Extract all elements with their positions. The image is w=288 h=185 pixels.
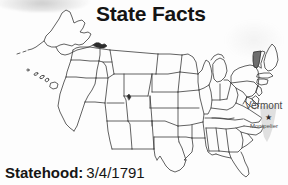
statehood-label: Statehood: [5, 164, 83, 181]
map-state-alaska [17, 10, 104, 55]
map-alaska-panhandle [93, 43, 107, 48]
map-region-west [58, 47, 114, 131]
us-map-svg [0, 0, 288, 185]
state-facts-card: State Facts Vermont ★ Montpelier Stateho… [0, 0, 288, 185]
statehood-value: 3/4/1791 [86, 164, 144, 181]
callout-capital-name: Montpelier [250, 122, 278, 130]
map-region-midwest [178, 54, 227, 160]
capital-star-icon: ★ [265, 114, 272, 122]
page-title: State Facts [96, 1, 206, 26]
us-map [0, 0, 288, 185]
map-state-vermont-highlight [253, 51, 261, 68]
callout-state-name: Vermont [245, 100, 282, 112]
statehood-fact: Statehood:3/4/1791 [5, 163, 145, 182]
map-state-hawaii [27, 69, 58, 89]
